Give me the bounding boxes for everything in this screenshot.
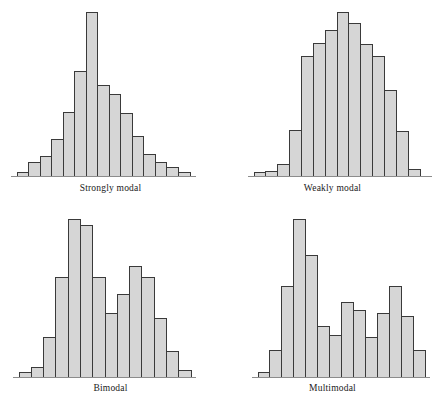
- histogram-bar: [294, 219, 306, 377]
- histogram-bar: [301, 56, 313, 176]
- histogram-bar: [413, 350, 425, 377]
- histogram-bar: [349, 23, 361, 176]
- histogram-bar: [373, 56, 385, 176]
- histogram-bimodal: [0, 211, 221, 389]
- histogram-bar: [109, 94, 121, 176]
- histogram-bar: [93, 277, 105, 377]
- histogram-bar: [117, 295, 129, 377]
- histogram-bar: [98, 86, 110, 176]
- histogram-bar: [266, 171, 278, 176]
- histogram-bar: [178, 173, 190, 176]
- histogram-bar: [270, 350, 282, 377]
- histogram-bar: [278, 165, 290, 176]
- histogram-bar: [408, 169, 420, 176]
- histogram-bar: [29, 163, 41, 176]
- panel-label-multimodal: Multimodal: [222, 383, 443, 393]
- histogram-bar: [290, 130, 302, 176]
- histogram-bar: [130, 266, 142, 377]
- histogram-bar: [31, 368, 43, 377]
- histogram-bar: [365, 338, 377, 378]
- histogram-bar: [144, 155, 156, 176]
- panel-label-strongly-modal: Strongly modal: [0, 183, 221, 193]
- histogram-svg: [0, 211, 221, 381]
- panel-multimodal: Multimodal: [222, 211, 443, 401]
- histogram-bar: [105, 314, 117, 377]
- histogram-strongly-modal: [0, 0, 221, 178]
- histogram-bar: [44, 338, 56, 378]
- histogram-bar: [167, 168, 179, 176]
- histogram-bar: [330, 336, 342, 377]
- histogram-bar: [142, 277, 154, 377]
- histogram-bar: [80, 225, 92, 377]
- histogram-bar: [63, 112, 75, 176]
- histogram-bar: [17, 173, 29, 176]
- histogram-shapes-figure: Strongly modal Weakly modal Bimodal Mult…: [0, 0, 443, 401]
- bar-group: [254, 12, 420, 176]
- histogram-bar: [86, 12, 98, 176]
- histogram-bar: [306, 255, 318, 377]
- panel-label-weakly-modal: Weakly modal: [222, 183, 443, 193]
- histogram-svg: [0, 0, 221, 180]
- histogram-bar: [254, 173, 266, 176]
- histogram-bar: [56, 277, 68, 377]
- panel-weakly-modal: Weakly modal: [222, 0, 443, 200]
- bar-group: [258, 219, 425, 377]
- histogram-bar: [401, 317, 413, 377]
- bar-group: [17, 12, 190, 176]
- histogram-bar: [40, 156, 52, 176]
- histogram-weakly-modal: [222, 0, 443, 178]
- bar-group: [19, 219, 191, 377]
- panel-strongly-modal: Strongly modal: [0, 0, 221, 200]
- histogram-bar: [396, 132, 408, 176]
- histogram-bar: [361, 45, 373, 176]
- histogram-bar: [313, 43, 325, 176]
- histogram-bar: [389, 287, 401, 377]
- panel-bimodal: Bimodal: [0, 211, 221, 401]
- histogram-bar: [258, 372, 270, 377]
- histogram-bar: [155, 163, 167, 176]
- histogram-svg: [222, 0, 443, 180]
- histogram-multimodal: [222, 211, 443, 389]
- histogram-bar: [384, 91, 396, 176]
- histogram-bar: [166, 352, 178, 377]
- histogram-bar: [132, 137, 144, 176]
- histogram-bar: [52, 140, 64, 176]
- histogram-bar: [353, 311, 365, 377]
- histogram-bar: [325, 30, 337, 176]
- panel-label-bimodal: Bimodal: [0, 383, 221, 393]
- histogram-bar: [282, 287, 294, 377]
- histogram-bar: [342, 303, 354, 377]
- histogram-bar: [68, 219, 80, 377]
- histogram-svg: [222, 211, 443, 381]
- histogram-bar: [318, 326, 330, 377]
- histogram-bar: [179, 371, 191, 377]
- histogram-bar: [121, 114, 133, 176]
- histogram-bar: [75, 71, 87, 176]
- histogram-bar: [377, 314, 389, 377]
- histogram-bar: [19, 372, 31, 377]
- histogram-bar: [154, 319, 166, 377]
- histogram-bar: [337, 12, 349, 176]
